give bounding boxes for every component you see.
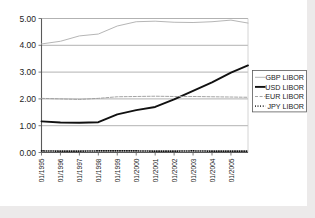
x-tick-label: 01/2001 bbox=[152, 158, 159, 182]
y-tick-label: 5.00 bbox=[19, 14, 36, 24]
plot-frame bbox=[42, 19, 249, 153]
x-tick-label: 01/1999 bbox=[114, 158, 121, 182]
series-line-usd-libor bbox=[42, 65, 249, 122]
legend-label-jpy-libor[interactable]: JPY LIBOR bbox=[267, 102, 304, 111]
legend-label-eur-libor[interactable]: EUR LIBOR bbox=[265, 92, 304, 101]
x-tick-label: 01/1998 bbox=[95, 158, 102, 182]
chart-legend[interactable]: GBP LIBORUSD LIBOREUR LIBORJPY LIBOR bbox=[253, 71, 307, 112]
x-axis-labels: 01/199501/199601/199701/199801/199901/20… bbox=[38, 158, 234, 182]
series-line-gbp-libor bbox=[42, 20, 249, 44]
x-tick-label: 01/2003 bbox=[190, 158, 197, 182]
x-tick-label: 01/2004 bbox=[209, 158, 216, 182]
line-chart: 0.001.002.003.004.005.00 01/199501/19960… bbox=[0, 0, 307, 206]
series-group bbox=[42, 20, 249, 151]
x-tick-label: 01/2002 bbox=[171, 158, 178, 182]
y-tick-label: 1.00 bbox=[19, 121, 36, 131]
x-tick-label: 01/2000 bbox=[133, 158, 140, 182]
y-tick-label: 4.00 bbox=[19, 40, 36, 50]
y-tick-label: 3.00 bbox=[19, 67, 36, 77]
x-tick-label: 01/1997 bbox=[76, 158, 83, 182]
x-tick-label: 01/1996 bbox=[57, 158, 64, 182]
chart-canvas: 0.001.002.003.004.005.00 01/199501/19960… bbox=[0, 0, 307, 206]
chart-page: 0.001.002.003.004.005.00 01/199501/19960… bbox=[0, 0, 315, 218]
x-tick-label: 01/2005 bbox=[228, 158, 235, 182]
y-tick-label: 0.00 bbox=[19, 148, 36, 158]
y-axis-labels: 0.001.002.003.004.005.00 bbox=[19, 14, 36, 158]
legend-label-usd-libor[interactable]: USD LIBOR bbox=[265, 83, 304, 92]
x-tick-label: 01/1995 bbox=[38, 158, 45, 182]
gridlines-group bbox=[42, 19, 249, 153]
legend-label-gbp-libor[interactable]: GBP LIBOR bbox=[265, 73, 304, 82]
y-tick-label: 2.00 bbox=[19, 94, 36, 104]
